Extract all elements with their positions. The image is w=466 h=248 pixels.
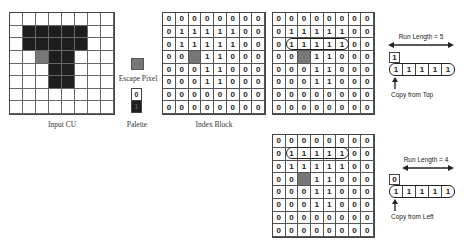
index-cell: 0 [349, 173, 362, 186]
pixel-cell [75, 76, 88, 89]
index-cell: 1 [311, 173, 324, 186]
pixel-cell [62, 101, 75, 114]
index-cell: 0 [163, 76, 176, 89]
index-block-grid: 0000000001111100011111000011000000110000… [162, 12, 266, 115]
index-cell: 0 [273, 148, 286, 161]
index-cell: 0 [361, 101, 374, 114]
pixel-cell [62, 13, 75, 26]
index-cell: 0 [349, 212, 362, 225]
run-cell: 1 [429, 186, 442, 197]
pixel-cell [36, 64, 49, 77]
index-cell: 1 [201, 51, 214, 64]
index-cell: 0 [311, 224, 324, 237]
index-cell: 0 [324, 89, 337, 102]
index-cell: 0 [361, 161, 374, 174]
pixel-cell [88, 26, 101, 39]
index-cell: 0 [286, 51, 299, 64]
index-cell: 0 [273, 76, 286, 89]
index-cell: 0 [227, 101, 240, 114]
index-cell: 0 [163, 26, 176, 39]
index-cell: 1 [324, 199, 337, 212]
index-cell: 0 [227, 13, 240, 26]
index-cell: 0 [349, 161, 362, 174]
pixel-cell [23, 38, 36, 51]
pixel-cell [75, 13, 88, 26]
index-cell: 1 [324, 186, 337, 199]
input-cu-label: Input CU [48, 120, 76, 129]
index-cell: 0 [336, 135, 349, 148]
index-cell: 0 [361, 148, 374, 161]
index-cell: 0 [336, 13, 349, 26]
index-cell: 1 [227, 26, 240, 39]
index-cell: 0 [349, 186, 362, 199]
pixel-cell [36, 38, 49, 51]
index-cell: 0 [240, 89, 253, 102]
index-cell: 0 [324, 101, 337, 114]
index-cell: 0 [240, 64, 253, 77]
index-cell: 0 [227, 89, 240, 102]
run-cell: 1 [416, 64, 429, 75]
index-cell: 0 [240, 13, 253, 26]
pixel-cell [23, 26, 36, 39]
index-cell: 0 [336, 173, 349, 186]
double-arrow-icon [402, 164, 454, 172]
index-cell: 0 [298, 89, 311, 102]
index-cell: 0 [252, 101, 265, 114]
run-cell: 1 [390, 186, 403, 197]
pixel-cell [88, 76, 101, 89]
index-cell: 0 [240, 76, 253, 89]
index-cell: 0 [189, 76, 202, 89]
pixel-cell [101, 101, 114, 114]
index-cell: 0 [349, 26, 362, 39]
pixel-cell [62, 38, 75, 51]
index-cell: 1 [176, 38, 189, 51]
pixel-cell [10, 76, 23, 89]
pixel-cell [36, 26, 49, 39]
escape-cell [298, 173, 311, 186]
pixel-cell [101, 89, 114, 102]
index-cell: 0 [273, 161, 286, 174]
pixel-cell [23, 76, 36, 89]
index-cell: 0 [201, 13, 214, 26]
pixel-cell [49, 38, 62, 51]
index-cell: 0 [349, 64, 362, 77]
index-cell: 0 [273, 38, 286, 51]
pixel-cell [10, 64, 23, 77]
up-arrow-icon [391, 199, 399, 211]
index-cell: 0 [286, 199, 299, 212]
index-cell: 0 [298, 199, 311, 212]
pixel-cell [88, 51, 101, 64]
index-cell: 0 [349, 199, 362, 212]
pixel-cell [10, 101, 23, 114]
index-cell: 1 [176, 26, 189, 39]
index-cell: 0 [349, 38, 362, 51]
pixel-cell [10, 89, 23, 102]
index-cell: 1 [189, 38, 202, 51]
index-cell: 0 [298, 13, 311, 26]
left-value-box: 0 [389, 174, 400, 185]
run-cell: 1 [442, 64, 454, 75]
index-cell: 1 [311, 76, 324, 89]
run-row: 11111 [389, 185, 455, 198]
run-cell: 1 [429, 64, 442, 75]
index-cell: 0 [361, 38, 374, 51]
index-cell: 1 [324, 51, 337, 64]
pixel-cell [10, 26, 23, 39]
palette-entry: 1 [132, 101, 141, 112]
index-cell: 0 [252, 26, 265, 39]
pixel-cell [88, 101, 101, 114]
index-cell: 0 [286, 76, 299, 89]
index-cell: 0 [252, 76, 265, 89]
index-cell: 0 [176, 89, 189, 102]
index-cell: 1 [214, 38, 227, 51]
index-cell: 0 [273, 224, 286, 237]
index-cell: 1 [201, 76, 214, 89]
index-cell: 0 [163, 89, 176, 102]
index-cell: 1 [201, 38, 214, 51]
index-cell: 1 [201, 26, 214, 39]
pixel-cell [36, 101, 49, 114]
run-cell: 1 [403, 186, 416, 197]
pixel-cell [88, 13, 101, 26]
index-cell: 0 [189, 13, 202, 26]
index-cell: 0 [361, 64, 374, 77]
